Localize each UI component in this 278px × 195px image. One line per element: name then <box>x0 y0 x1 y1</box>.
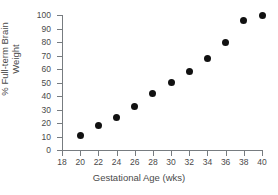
x-tick-label: 32 <box>179 158 199 167</box>
x-tick-label: 34 <box>197 158 217 167</box>
data-point <box>113 114 120 121</box>
x-tick-mark <box>62 151 63 156</box>
x-tick-label: 36 <box>216 158 236 167</box>
y-axis-line <box>62 15 63 151</box>
data-point <box>95 122 102 129</box>
x-tick-mark <box>207 151 208 156</box>
x-tick-label: 18 <box>52 158 72 167</box>
y-tick-mark <box>57 83 62 84</box>
x-tick-label: 22 <box>88 158 108 167</box>
y-tick-mark <box>57 42 62 43</box>
y-tick-mark <box>57 56 62 57</box>
y-tick-mark <box>57 69 62 70</box>
y-tick-label: 10 <box>5 133 51 142</box>
x-tick-label: 24 <box>107 158 127 167</box>
y-tick-label: 20 <box>5 119 51 128</box>
x-tick-mark <box>244 151 245 156</box>
y-axis-title-line-1: % Full-term Brain <box>0 0 10 120</box>
x-tick-label: 20 <box>70 158 90 167</box>
y-tick-mark <box>57 123 62 124</box>
x-tick-label: 26 <box>125 158 145 167</box>
x-tick-mark <box>226 151 227 156</box>
x-tick-mark <box>98 151 99 156</box>
data-point <box>259 12 266 19</box>
x-tick-label: 38 <box>234 158 254 167</box>
y-tick-label: 0 <box>5 146 51 155</box>
data-point <box>204 55 211 62</box>
y-tick-mark <box>57 137 62 138</box>
x-tick-mark <box>153 151 154 156</box>
x-tick-mark <box>117 151 118 156</box>
x-axis-title: Gestational Age (wks) <box>0 172 278 183</box>
y-tick-mark <box>57 15 62 16</box>
x-tick-label: 28 <box>143 158 163 167</box>
x-tick-mark <box>171 151 172 156</box>
data-point <box>240 17 247 24</box>
y-tick-mark <box>57 29 62 30</box>
x-tick-mark <box>262 151 263 156</box>
y-axis-title: % Full-term Brain Weight <box>0 0 21 120</box>
data-point <box>186 68 193 75</box>
x-tick-label: 30 <box>161 158 181 167</box>
y-tick-mark <box>57 110 62 111</box>
x-tick-mark <box>80 151 81 156</box>
y-tick-mark <box>57 96 62 97</box>
data-point <box>222 39 229 46</box>
data-point <box>168 79 175 86</box>
x-axis-line <box>62 150 263 151</box>
scatter-chart: 0102030405060708090100 18202224262830323… <box>0 0 278 195</box>
y-axis-title-line-2: Weight <box>10 0 21 120</box>
data-point <box>149 90 156 97</box>
x-tick-mark <box>135 151 136 156</box>
data-point <box>131 103 138 110</box>
data-point <box>77 132 84 139</box>
x-tick-mark <box>189 151 190 156</box>
x-tick-label: 40 <box>252 158 272 167</box>
